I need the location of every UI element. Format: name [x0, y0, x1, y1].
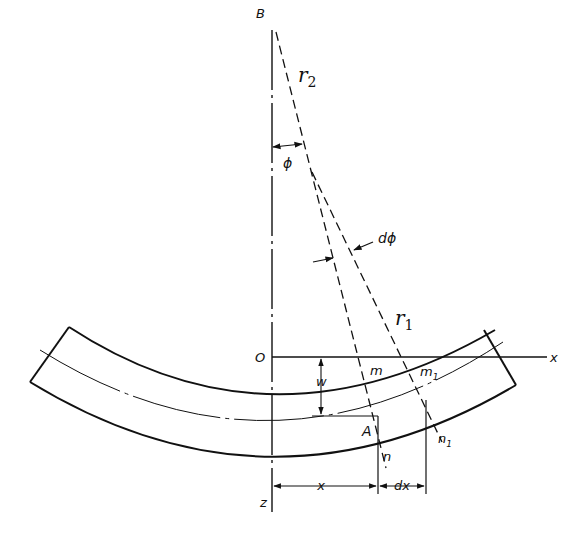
label-phi: ϕ — [283, 155, 292, 171]
beam-diagram: B r2 ϕ dϕ r1 O x z w m m1 A n n1 x dx — [0, 0, 584, 535]
beam-left-end — [30, 327, 69, 382]
label-dphi: dϕ — [378, 230, 396, 246]
label-x-dimension: x — [316, 478, 325, 493]
label-w: w — [316, 374, 327, 389]
label-m1: m1 — [420, 364, 438, 382]
label-dx-dimension: dx — [394, 478, 410, 493]
radius-r2-line — [276, 32, 386, 468]
label-O: O — [255, 350, 265, 365]
label-z-axis: z — [259, 495, 268, 510]
label-r2: r2 — [298, 63, 316, 90]
label-n: n — [383, 449, 391, 464]
label-m: m — [370, 363, 383, 378]
label-x-axis: x — [549, 350, 558, 365]
dphi-arrow-right — [354, 242, 373, 250]
dphi-arrow-left — [313, 258, 333, 262]
label-A: A — [361, 423, 372, 439]
phi-arrow — [273, 144, 302, 147]
label-B: B — [256, 6, 265, 21]
label-n1: n1 — [438, 431, 452, 449]
beam-top-edge — [69, 327, 495, 394]
label-r1: r1 — [395, 306, 413, 333]
radius-r1-line — [312, 172, 442, 442]
